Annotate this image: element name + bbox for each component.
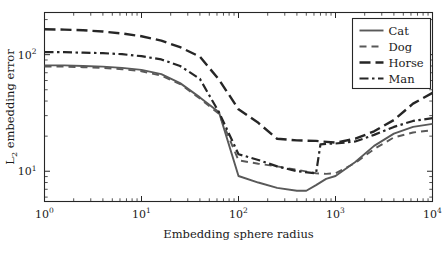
legend-label-man: Man [389,72,416,86]
x-tick-label: 102 [229,206,248,221]
y-axis-title: L2 embedding error [3,49,19,165]
x-tick-label: 103 [326,206,345,221]
legend-label-horse: Horse [389,56,424,70]
svg-text:L2 embedding error: L2 embedding error [3,49,19,165]
y-tick-label: 102 [18,47,37,62]
x-tick-label: 104 [423,206,442,221]
legend-label-cat: Cat [389,24,410,38]
chart-figure: 100101102103104101102Embedding sphere ra… [0,0,448,259]
y-tick-label: 101 [18,164,37,179]
x-axis-title: Embedding sphere radius [163,227,314,241]
x-tick-label: 100 [35,206,54,221]
x-tick-label: 101 [132,206,151,221]
chart-svg: 100101102103104101102Embedding sphere ra… [0,0,448,259]
legend-label-dog: Dog [389,40,413,54]
chart-legend: CatDogHorseMan [353,19,431,89]
